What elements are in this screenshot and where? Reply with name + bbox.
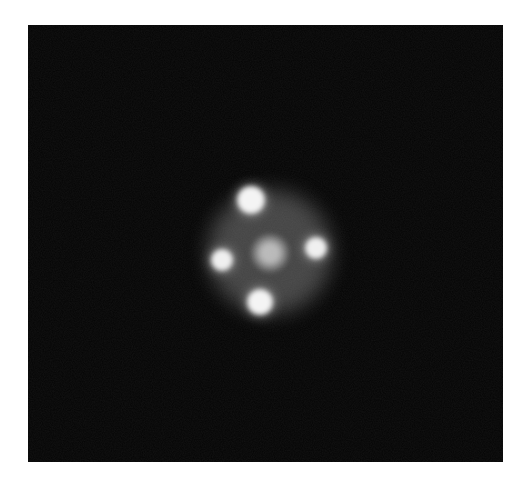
lensed-image-right [305, 237, 327, 259]
lensed-image-top [237, 186, 265, 214]
lensed-image-left [211, 249, 233, 271]
central-core [250, 233, 290, 273]
astronomical-image-frame [28, 25, 503, 462]
lensed-image-bottom [247, 289, 273, 315]
